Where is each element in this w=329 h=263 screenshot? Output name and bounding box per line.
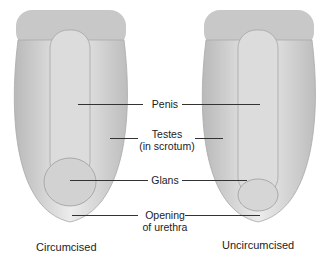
opening-leader-right — [185, 215, 260, 216]
opening-label-line1: Opening — [138, 209, 192, 221]
caption-uncircumcised: Uncircumcised — [222, 239, 294, 251]
testes-leader-left — [110, 138, 138, 139]
opening-label: Opening of urethra — [138, 209, 192, 233]
glans-label: Glans — [148, 174, 182, 186]
anatomy-schematic-right — [196, 0, 321, 232]
opening-leader-left — [72, 215, 138, 216]
opening-label-line2: of urethra — [138, 221, 192, 233]
anatomy-schematic-left — [8, 0, 133, 232]
testes-label-line1: Testes — [138, 128, 196, 140]
uncircumcised-illustration — [196, 0, 321, 232]
penis-leader-right — [182, 104, 260, 105]
penis-label: Penis — [148, 98, 182, 110]
glans-leader-left — [70, 180, 148, 181]
testes-leader-right — [195, 138, 223, 139]
testes-label-line2: (in scrotum) — [138, 140, 196, 152]
testes-label: Testes (in scrotum) — [138, 128, 196, 152]
caption-circumcised: Circumcised — [36, 241, 97, 253]
glans-leader-right — [182, 180, 247, 181]
circumcised-illustration — [8, 0, 133, 232]
penis-leader-left — [78, 104, 143, 105]
